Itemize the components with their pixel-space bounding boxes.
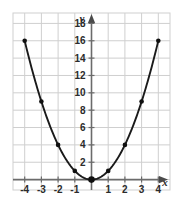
y-tick-label: 2: [80, 157, 86, 168]
y-axis-label: y: [78, 12, 85, 24]
chart-canvas: -4-3-2-11234 24681012141618 y x: [0, 0, 175, 199]
data-point-marker: [106, 169, 111, 174]
y-tick-label: 16: [74, 35, 86, 46]
y-tick-label: 12: [74, 70, 86, 81]
data-point-marker: [156, 38, 161, 43]
data-point-marker: [56, 143, 61, 148]
y-tick-label: 6: [80, 122, 86, 133]
data-point-marker: [72, 169, 77, 174]
coordinate-plane-chart: -4-3-2-11234 24681012141618 y x: [0, 0, 175, 199]
y-tick-label: 8: [80, 105, 86, 116]
data-point-marker: [39, 99, 44, 104]
data-point-marker: [123, 143, 128, 148]
x-tick-label: 2: [122, 184, 128, 195]
y-tick-label: 14: [74, 53, 86, 64]
x-tick-label: -3: [37, 184, 46, 195]
y-tick-label: 10: [74, 87, 86, 98]
x-axis-label: x: [161, 176, 168, 188]
x-tick-label: -2: [54, 184, 63, 195]
vertex-point-marker: [88, 176, 95, 183]
data-point-marker: [139, 99, 144, 104]
x-tick-label: -1: [70, 184, 79, 195]
x-tick-label: 1: [105, 184, 111, 195]
y-tick-label: 4: [80, 139, 86, 150]
x-tick-label: -4: [20, 184, 29, 195]
data-point-marker: [22, 38, 27, 43]
x-tick-label: 3: [139, 184, 145, 195]
x-tick-label: 4: [156, 184, 162, 195]
